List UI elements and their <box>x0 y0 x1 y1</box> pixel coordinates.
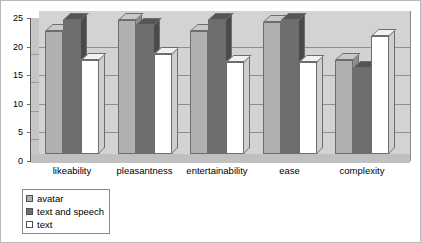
bar-front-face <box>299 62 317 154</box>
bar-front-face <box>118 20 136 154</box>
bar-pleasantness-avatar <box>118 20 136 154</box>
gridline-front-20 <box>31 54 39 55</box>
y-tick-label-15: 15 <box>1 71 23 80</box>
bar-complexity-avatar <box>335 60 353 154</box>
plot-area <box>31 11 410 163</box>
x-axis-label-pleasantness: pleasantness <box>106 165 184 176</box>
bar-side-face <box>99 53 105 154</box>
bar-front-face <box>208 20 226 154</box>
legend-swatch-icon-text <box>26 221 33 228</box>
bar-front-face <box>226 62 244 154</box>
bar-side-face <box>389 29 395 154</box>
legend-label-text: text <box>37 219 52 230</box>
bar-entertainability-text <box>226 62 244 154</box>
bar-front-face <box>263 22 281 154</box>
bar-front-face <box>154 54 172 154</box>
bar-complexity-text <box>371 36 389 154</box>
y-tick-label-0: 0 <box>1 157 23 166</box>
bar-entertainability-text-and-speech <box>208 20 226 154</box>
y-tick-label-10: 10 <box>1 100 23 109</box>
bar-chart-figure: 25 20 15 10 5 0 likeabilitypleasantnesse… <box>0 0 421 243</box>
gridline-front-10 <box>31 111 39 112</box>
plot-floor <box>31 154 410 163</box>
y-tick-label-5: 5 <box>1 128 23 137</box>
bar-ease-avatar <box>263 22 281 154</box>
legend-item-text-and-speech: text and speech <box>26 205 104 218</box>
bar-pleasantness-text-and-speech <box>136 25 154 154</box>
x-axis-label-entertainability: entertainability <box>178 165 256 176</box>
bar-front-face <box>190 31 208 154</box>
x-axis-label-likeability: likeability <box>33 165 111 176</box>
gridline-front-15 <box>31 82 39 83</box>
bar-likeability-text-and-speech <box>63 20 81 154</box>
bar-front-face <box>371 36 389 154</box>
legend-swatch-icon-text-and-speech <box>26 208 33 215</box>
bar-entertainability-avatar <box>190 31 208 154</box>
bar-front-face <box>281 20 299 154</box>
bar-front-face <box>335 60 353 154</box>
bar-likeability-text <box>81 60 99 154</box>
y-tick-label-25: 25 <box>1 14 23 23</box>
legend-label-text-and-speech: text and speech <box>37 206 104 217</box>
bar-side-face <box>317 56 323 154</box>
legend-item-text: text <box>26 218 104 231</box>
gridline-front-5 <box>31 139 39 140</box>
bar-complexity-text-and-speech <box>353 68 371 154</box>
bar-front-face <box>136 25 154 154</box>
y-tick-label-20: 20 <box>1 43 23 52</box>
bar-front-face <box>81 60 99 154</box>
legend-swatch-icon-avatar <box>26 195 33 202</box>
bar-side-face <box>244 56 250 154</box>
bar-ease-text <box>299 62 317 154</box>
bar-ease-text-and-speech <box>281 20 299 154</box>
bar-pleasantness-text <box>154 54 172 154</box>
bar-likeability-avatar <box>45 31 63 154</box>
x-axis-label-complexity: complexity <box>323 165 401 176</box>
bar-front-face <box>353 68 371 154</box>
bar-front-face <box>63 20 81 154</box>
x-axis-label-ease: ease <box>251 165 329 176</box>
bar-side-face <box>172 47 178 154</box>
bar-front-face <box>45 31 63 154</box>
chart-legend: avatar text and speech text <box>22 189 110 234</box>
legend-item-avatar: avatar <box>26 192 104 205</box>
legend-label-avatar: avatar <box>37 193 63 204</box>
